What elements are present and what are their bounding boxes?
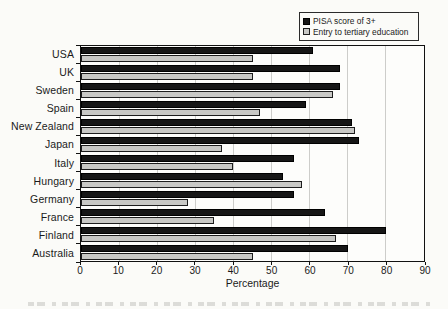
x-axis-ticks: 0102030405060708090 (80, 262, 425, 278)
bar-pisa (81, 119, 352, 126)
entry-series-swatch-icon (303, 28, 310, 35)
bar-entry (81, 253, 253, 260)
bar-pisa (81, 245, 348, 252)
category-label: Spain (0, 99, 74, 117)
bar-pisa (81, 101, 306, 108)
scanned-bar-chart-figure: PISA score of 3+ Entry to tertiary educa… (0, 0, 448, 309)
x-tick-label: 80 (381, 265, 392, 276)
plot-area (80, 45, 425, 262)
x-tick-label: 70 (343, 265, 354, 276)
bar-pisa (81, 47, 313, 54)
bar-entry (81, 163, 233, 170)
bar-rows (81, 46, 424, 261)
legend-label-pisa: PISA score of 3+ (313, 17, 376, 25)
bar-pisa (81, 83, 340, 90)
bar-pisa (81, 227, 386, 234)
category-label: Finland (0, 226, 74, 244)
bar-group-spain (81, 100, 424, 118)
category-label: Italy (0, 153, 74, 171)
x-axis-title: Percentage (80, 277, 425, 289)
x-tick-label: 50 (266, 265, 277, 276)
bar-pisa (81, 173, 283, 180)
bar-pisa (81, 155, 294, 162)
category-label: Australia (0, 244, 74, 262)
bar-entry (81, 217, 214, 224)
bar-entry (81, 181, 302, 188)
bar-entry (81, 55, 253, 62)
cut-off-caption-strip (28, 302, 430, 306)
bar-entry (81, 73, 253, 80)
bar-group-finland (81, 225, 424, 243)
category-label: Hungary (0, 172, 74, 190)
legend-item-entry: Entry to tertiary education (303, 28, 415, 36)
category-label: USA (0, 45, 74, 63)
category-label: UK (0, 63, 74, 81)
y-axis-category-labels: USAUKSwedenSpainNew ZealandJapanItalyHun… (0, 45, 74, 262)
x-tick-label: 60 (304, 265, 315, 276)
category-label: Japan (0, 135, 74, 153)
bar-group-usa (81, 46, 424, 64)
bar-pisa (81, 209, 325, 216)
bar-group-uk (81, 64, 424, 82)
bar-group-germany (81, 189, 424, 207)
bar-pisa (81, 137, 359, 144)
bar-entry (81, 91, 333, 98)
bar-entry (81, 127, 355, 134)
x-tick-label: 90 (419, 265, 430, 276)
bar-entry (81, 235, 336, 242)
category-label: France (0, 208, 74, 226)
category-label: Germany (0, 190, 74, 208)
x-tick-label: 20 (151, 265, 162, 276)
pisa-series-swatch-icon (303, 18, 310, 25)
bar-pisa (81, 65, 340, 72)
bar-group-sweden (81, 82, 424, 100)
bar-entry (81, 109, 260, 116)
x-tick-label: 10 (113, 265, 124, 276)
category-label: Sweden (0, 81, 74, 99)
legend-item-pisa: PISA score of 3+ (303, 17, 415, 25)
bar-pisa (81, 191, 294, 198)
legend-box: PISA score of 3+ Entry to tertiary educa… (299, 12, 419, 41)
bar-entry (81, 145, 222, 152)
bar-group-italy (81, 154, 424, 172)
bar-entry (81, 199, 188, 206)
bar-group-hungary (81, 171, 424, 189)
x-tick-label: 40 (228, 265, 239, 276)
bar-group-japan (81, 136, 424, 154)
bar-group-australia (81, 243, 424, 261)
category-label: New Zealand (0, 117, 74, 135)
bar-group-new-zealand (81, 118, 424, 136)
x-tick-label: 30 (189, 265, 200, 276)
legend-label-entry: Entry to tertiary education (313, 28, 408, 36)
x-tick-label: 0 (77, 265, 83, 276)
bar-group-france (81, 207, 424, 225)
